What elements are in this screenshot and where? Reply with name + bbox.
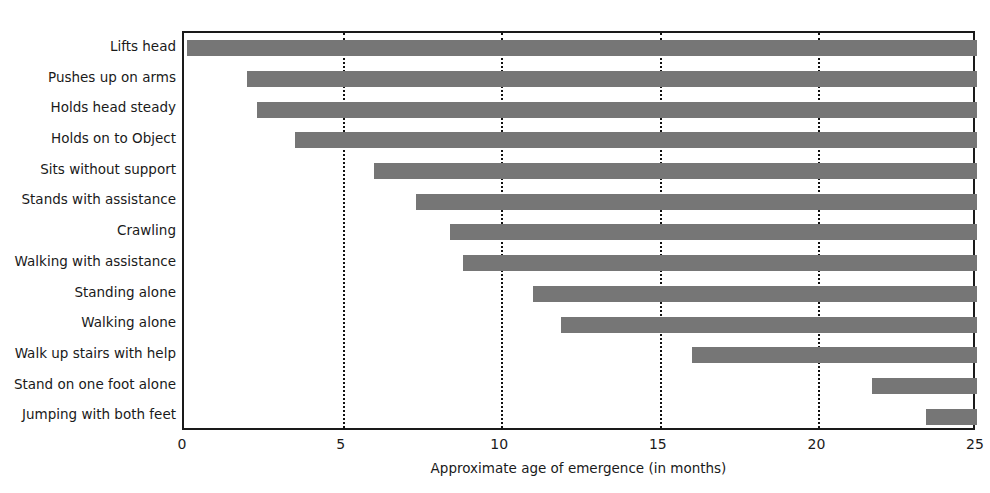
bar-row <box>184 64 973 95</box>
y-axis-label: Standing alone <box>0 277 176 308</box>
bar-row <box>184 33 973 64</box>
y-axis-label: Stand on one foot alone <box>0 369 176 400</box>
bar <box>926 409 977 425</box>
y-axis-label: Crawling <box>0 215 176 246</box>
x-axis-title: Approximate age of emergence (in months) <box>182 460 975 476</box>
bar-row <box>184 340 973 371</box>
bar <box>374 163 977 179</box>
bar-row <box>184 125 973 156</box>
bar <box>187 40 977 56</box>
x-tick-label: 15 <box>649 436 667 452</box>
y-axis-label: Walk up stairs with help <box>0 338 176 369</box>
bar-row <box>184 248 973 279</box>
bar-row <box>184 279 973 310</box>
bar-row <box>184 371 973 402</box>
bar <box>257 102 977 118</box>
bar-row <box>184 401 973 432</box>
bar <box>416 194 977 210</box>
y-axis-labels: Lifts headPushes up on armsHolds head st… <box>0 31 176 430</box>
plot-area <box>182 31 975 430</box>
y-axis-label: Walking alone <box>0 307 176 338</box>
x-tick-label: 10 <box>490 436 508 452</box>
y-axis-label: Pushes up on arms <box>0 62 176 93</box>
x-tick-label: 25 <box>966 436 984 452</box>
y-axis-label: Holds on to Object <box>0 123 176 154</box>
bar <box>692 347 977 363</box>
bar-row <box>184 186 973 217</box>
bar <box>295 132 977 148</box>
bar-row <box>184 94 973 125</box>
bar-row <box>184 217 973 248</box>
y-axis-label: Holds head steady <box>0 92 176 123</box>
x-tick-label: 5 <box>336 436 345 452</box>
y-axis-label: Stands with assistance <box>0 184 176 215</box>
bar <box>463 255 977 271</box>
y-axis-label: Lifts head <box>0 31 176 62</box>
y-axis-label: Sits without support <box>0 154 176 185</box>
x-tick-label: 0 <box>178 436 187 452</box>
bar <box>561 317 977 333</box>
bar <box>872 378 977 394</box>
bar-chart-figure: Lifts headPushes up on armsHolds head st… <box>0 0 990 493</box>
bar-row <box>184 309 973 340</box>
x-tick-label: 20 <box>807 436 825 452</box>
y-axis-label: Walking with assistance <box>0 246 176 277</box>
bar <box>247 71 977 87</box>
bar <box>450 224 977 240</box>
bar-row <box>184 156 973 187</box>
y-axis-label: Jumping with both feet <box>0 399 176 430</box>
bar <box>533 286 977 302</box>
